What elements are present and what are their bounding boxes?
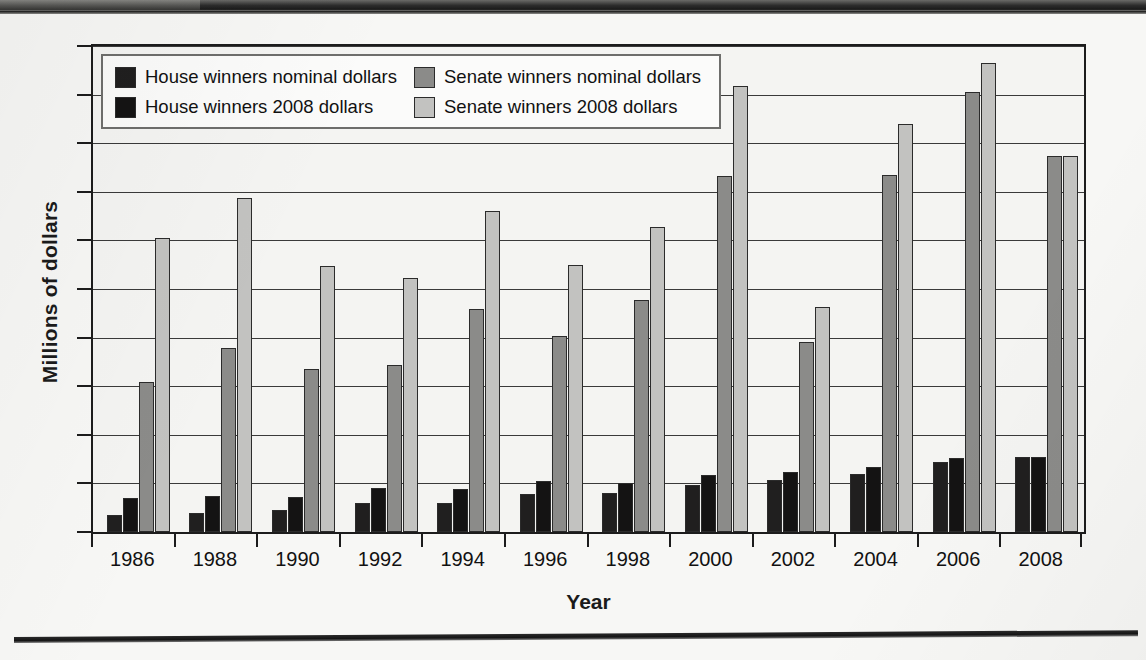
x-axis-ticks [91, 534, 1086, 548]
bar [536, 481, 551, 532]
y-tick-mark [77, 482, 93, 484]
x-tick-mark [339, 534, 341, 547]
bar [155, 238, 170, 532]
bar [618, 483, 633, 532]
x-tick-label: 2006 [913, 548, 1003, 571]
bar [981, 63, 996, 532]
legend-label: Senate winners 2008 dollars [444, 96, 677, 118]
y-tick-mark [77, 337, 93, 339]
bar [288, 497, 303, 532]
bar [403, 278, 418, 532]
bar [783, 472, 798, 532]
page-top-rule-shadow [0, 11, 1146, 14]
x-tick-label: 1988 [170, 548, 260, 571]
x-tick-label: 1990 [252, 548, 342, 571]
bar [799, 342, 814, 532]
bar [1015, 457, 1030, 532]
bar [139, 382, 154, 532]
legend-swatch-icon [414, 67, 435, 88]
x-tick-mark [421, 534, 423, 547]
bar [552, 336, 567, 532]
bar [123, 498, 138, 532]
bar [949, 458, 964, 532]
x-tick-mark [999, 534, 1001, 547]
bar [701, 475, 716, 532]
y-tick-mark [77, 94, 93, 96]
legend-item: Senate winners 2008 dollars [414, 96, 709, 118]
bar [320, 266, 335, 532]
bar [387, 365, 402, 532]
bar [304, 369, 319, 532]
bar [189, 513, 204, 532]
x-tick-mark [504, 534, 506, 547]
y-tick-mark [77, 288, 93, 290]
bar-chart-figure: Millions of dollars 012345678910 1986198… [0, 18, 1146, 618]
bar [107, 515, 122, 532]
legend-item: Senate winners nominal dollars [414, 66, 709, 88]
bar [933, 462, 948, 532]
legend-label: House winners 2008 dollars [145, 96, 373, 118]
x-tick-label: 1994 [418, 548, 508, 571]
x-axis-labels: 1986198819901992199419961998200020022004… [91, 548, 1086, 582]
y-tick-mark [77, 531, 93, 533]
legend-swatch-icon [115, 97, 136, 118]
legend-swatch-icon [414, 97, 435, 118]
bar [733, 86, 748, 532]
bar [717, 176, 732, 532]
bar [272, 510, 287, 532]
bar [685, 485, 700, 532]
x-tick-mark [834, 534, 836, 547]
bar [355, 503, 370, 532]
bar [1047, 156, 1062, 532]
bar-group [919, 46, 1002, 532]
y-axis-title: Millions of dollars [38, 172, 62, 412]
bar [965, 92, 980, 532]
x-tick-mark [752, 534, 754, 547]
x-axis-title: Year [91, 590, 1086, 614]
bar-group [1001, 46, 1084, 532]
x-tick-label: 1992 [335, 548, 425, 571]
x-tick-mark [1080, 534, 1082, 547]
bar-group [836, 46, 919, 532]
bar [882, 175, 897, 532]
x-tick-mark [669, 534, 671, 547]
bar [634, 300, 649, 532]
bar [469, 309, 484, 532]
y-tick-mark [77, 434, 93, 436]
x-tick-label: 2000 [665, 548, 755, 571]
legend-item: House winners 2008 dollars [115, 96, 410, 118]
legend-swatch-icon [115, 67, 136, 88]
y-tick-mark [77, 385, 93, 387]
x-tick-mark [174, 534, 176, 547]
y-tick-mark [77, 191, 93, 193]
x-tick-label: 1998 [583, 548, 673, 571]
bar [650, 227, 665, 532]
bar [221, 348, 236, 532]
x-tick-mark [917, 534, 919, 547]
legend-label: House winners nominal dollars [145, 66, 397, 88]
y-tick-mark [77, 45, 93, 47]
x-tick-label: 2004 [831, 548, 921, 571]
legend-label: Senate winners nominal dollars [444, 66, 701, 88]
bar [850, 474, 865, 532]
bar [205, 496, 220, 532]
bar [237, 198, 252, 532]
bar [520, 494, 535, 532]
bar [866, 467, 881, 532]
bar [898, 124, 913, 532]
y-tick-mark [77, 239, 93, 241]
x-tick-label: 1996 [500, 548, 590, 571]
legend-item: House winners nominal dollars [115, 66, 410, 88]
x-tick-mark [91, 534, 93, 547]
bar [568, 265, 583, 532]
scan-smudge [0, 0, 200, 10]
chart-legend: House winners nominal dollarsSenate winn… [101, 54, 721, 129]
x-tick-label: 2002 [748, 548, 838, 571]
x-tick-label: 2008 [996, 548, 1086, 571]
bar [815, 307, 830, 533]
x-tick-mark [587, 534, 589, 547]
bar [437, 503, 452, 532]
bar [1063, 156, 1078, 532]
bar [371, 488, 386, 532]
page-bottom-rule [14, 630, 1138, 643]
